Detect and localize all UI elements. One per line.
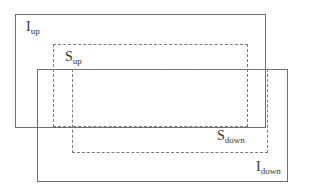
- label-s-up-main: S: [65, 49, 73, 64]
- label-s-down-main: S: [217, 128, 225, 143]
- label-s-up: Sup: [65, 50, 82, 66]
- label-s-up-sub: up: [73, 56, 82, 66]
- label-i-up-sub: up: [31, 26, 40, 36]
- label-i-up: Iup: [26, 20, 40, 36]
- label-i-down-sub: down: [261, 166, 281, 176]
- label-s-down-sub: down: [225, 135, 245, 145]
- label-i-down: Idown: [256, 160, 281, 176]
- label-s-down: Sdown: [217, 129, 245, 145]
